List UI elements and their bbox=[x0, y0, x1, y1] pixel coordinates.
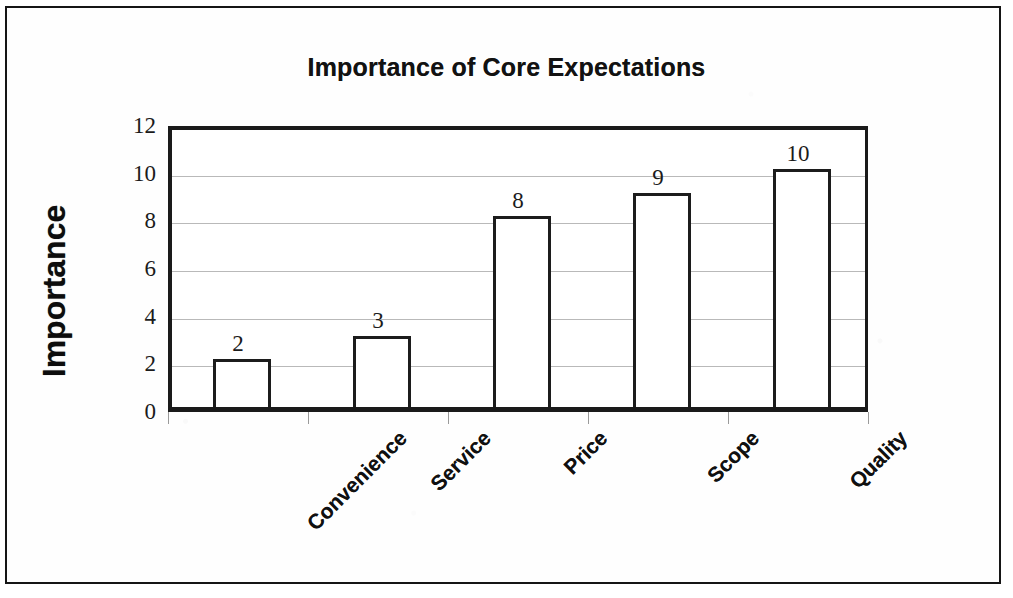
x-axis-tick bbox=[168, 412, 169, 424]
gridline bbox=[172, 176, 865, 177]
x-axis-tick bbox=[448, 412, 449, 424]
y-axis-title: Importance bbox=[36, 166, 73, 416]
bar-service bbox=[353, 336, 411, 408]
chart-plot-area bbox=[168, 126, 868, 412]
chart-plot-inner bbox=[172, 130, 865, 407]
data-label-quality: 10 bbox=[787, 141, 810, 167]
data-label-service: 3 bbox=[372, 308, 384, 334]
data-label-convenience: 2 bbox=[232, 331, 244, 357]
x-axis-tick bbox=[728, 412, 729, 424]
y-axis-tick-label: 8 bbox=[104, 208, 156, 234]
y-axis-tick-label: 6 bbox=[104, 256, 156, 282]
x-axis-tick bbox=[308, 412, 309, 424]
x-axis-tick bbox=[868, 412, 869, 424]
y-axis-tick-label: 12 bbox=[104, 113, 156, 139]
bar-price bbox=[493, 216, 551, 407]
y-axis-tick-label-group: 024681012 bbox=[98, 126, 156, 412]
y-axis-tick-label: 0 bbox=[104, 399, 156, 425]
data-label-price: 8 bbox=[512, 188, 524, 214]
y-axis-tick-label: 2 bbox=[104, 351, 156, 377]
y-axis-tick-label: 10 bbox=[104, 161, 156, 187]
bar-convenience bbox=[213, 359, 271, 407]
data-label-scope: 9 bbox=[652, 165, 664, 191]
bar-quality bbox=[773, 169, 831, 407]
bar-scope bbox=[633, 193, 691, 408]
x-axis-tick bbox=[588, 412, 589, 424]
chart-title: Importance of Core Expectations bbox=[0, 53, 1013, 82]
y-axis-tick-label: 4 bbox=[104, 304, 156, 330]
